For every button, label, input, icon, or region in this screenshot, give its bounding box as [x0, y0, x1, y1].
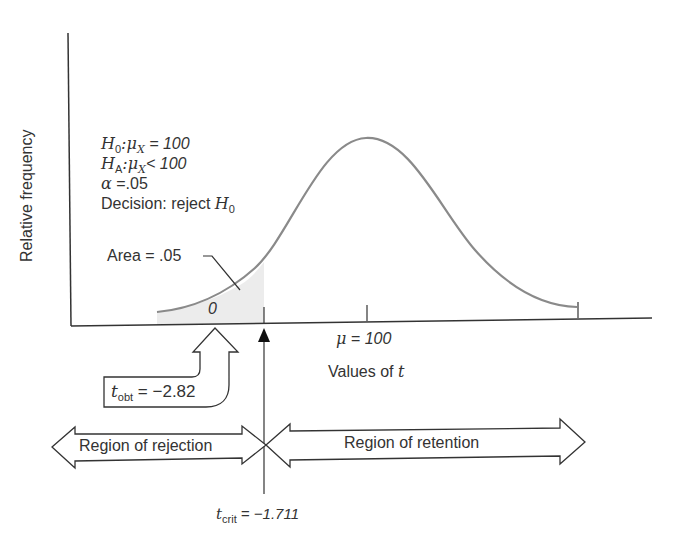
alpha-value: =.05: [112, 175, 148, 192]
t-crit-label: tcrit = −1.711: [216, 506, 299, 525]
ha-symbol: H: [101, 154, 115, 173]
ha-mu: :μ: [122, 154, 138, 173]
mean-label: μ = 100: [336, 331, 391, 347]
retention-region-label: Region of retention: [344, 435, 479, 451]
y-axis-label: Relative frequency: [18, 129, 36, 262]
x-label-var: t: [398, 362, 404, 381]
x-label-prefix: Values of: [328, 363, 398, 380]
t-crit-sub: crit: [222, 513, 237, 525]
zero-label: 0: [208, 301, 217, 317]
h0-mu: :μ: [121, 134, 137, 153]
x-axis-label: Values of t: [328, 364, 404, 380]
h0-value: = 100: [145, 135, 190, 152]
null-hypothesis: H0:μX = 100: [101, 134, 235, 154]
mu-value: = 100: [346, 330, 391, 347]
decision-text: Decision: reject: [101, 195, 215, 212]
decision: Decision: reject H0: [101, 194, 235, 214]
y-axis: [68, 33, 71, 326]
t-obt-label: tobt = −2.82: [111, 383, 196, 403]
alpha-level: α =.05: [101, 174, 235, 194]
rejection-region-label: Region of rejection: [79, 438, 212, 454]
alpha-symbol: α: [101, 174, 112, 193]
area-label: Area = .05: [107, 248, 181, 264]
alt-hypothesis: HA:μX< 100: [101, 154, 235, 174]
h0-symbol: H: [101, 134, 115, 153]
t-crit-arrowhead: [258, 328, 270, 342]
hypotheses-block: H0:μX = 100 HA:μX< 100 α =.05 Decision: …: [101, 134, 235, 214]
decision-sub: 0: [229, 203, 235, 215]
mu-symbol: μ: [336, 329, 346, 348]
decision-symbol: H: [215, 194, 229, 213]
t-obt-symbol: t: [111, 381, 118, 401]
distribution-diagram: [0, 0, 680, 546]
t-obt-sub: obt: [118, 391, 133, 403]
t-crit-value: = −1.711: [237, 505, 299, 522]
t-obt-value: = −2.82: [133, 382, 195, 401]
ha-value: < 100: [146, 155, 186, 172]
